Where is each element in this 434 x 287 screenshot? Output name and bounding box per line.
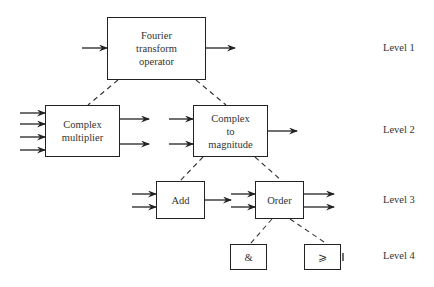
complex-to-magnitude-label: Complex to magnitude (208, 112, 252, 151)
geq-block: ⩾ (304, 244, 341, 270)
link-fourier-cm (88, 80, 118, 105)
level-3-label: Level 3 (383, 194, 415, 205)
and-block: & (230, 244, 267, 270)
level-2-label: Level 2 (383, 124, 415, 135)
link-ctm-add (180, 157, 203, 181)
and-label: & (244, 251, 252, 264)
add-label: Add (171, 194, 189, 207)
order-label: Order (267, 194, 292, 207)
add-block: Add (156, 181, 205, 219)
fourier-transform-operator-block: Fourier transform operator (107, 17, 206, 80)
complex-to-magnitude-block: Complex to magnitude (193, 105, 268, 157)
link-fourier-ctm (196, 80, 226, 105)
complex-multiplier-block: Complex multiplier (45, 105, 120, 157)
link-order-geq (290, 219, 327, 244)
order-block: Order (255, 181, 304, 219)
link-order-and (250, 219, 272, 244)
geq-label: ⩾ (318, 251, 327, 264)
level-4-label: Level 4 (383, 250, 415, 261)
link-ctm-order (255, 157, 282, 181)
level-1-label: Level 1 (383, 42, 415, 53)
fourier-label: Fourier transform operator (136, 29, 177, 68)
complex-multiplier-label: Complex multiplier (62, 118, 103, 144)
